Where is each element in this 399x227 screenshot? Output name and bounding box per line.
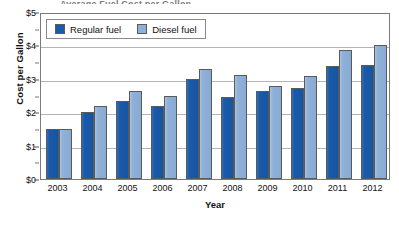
bar-diesel-fuel	[94, 106, 107, 179]
x-tick-label: 2004	[73, 183, 113, 193]
y-tick-label: $5	[2, 8, 36, 18]
bar-regular-fuel	[151, 106, 164, 179]
bar-regular-fuel	[186, 79, 199, 179]
y-tick-mark	[34, 146, 39, 147]
y-tick-label: $0	[2, 175, 36, 185]
x-tick-label: 2012	[353, 183, 393, 193]
bar-diesel-fuel	[269, 86, 282, 179]
x-tick-label: 2010	[283, 183, 323, 193]
fuel-cost-bar-chart: Average Fuel Cost per Gallon Cost per Ga…	[0, 0, 399, 227]
y-tick-minor-mark	[35, 29, 39, 30]
bar-group	[256, 14, 282, 179]
regular-fuel-swatch-icon	[55, 24, 65, 34]
y-tick-mark	[34, 113, 39, 114]
diesel-fuel-swatch-icon	[137, 24, 147, 34]
y-tick-mark	[34, 79, 39, 80]
y-tick-label: $2	[2, 108, 36, 118]
bar-diesel-fuel	[59, 129, 72, 179]
bar-regular-fuel	[256, 91, 269, 180]
bar-regular-fuel	[46, 129, 59, 179]
bar-diesel-fuel	[164, 96, 177, 180]
y-tick-mark	[34, 180, 39, 181]
x-tick-label: 2006	[143, 183, 183, 193]
legend-label-diesel-fuel: Diesel fuel	[152, 24, 196, 35]
y-tick-minor-mark	[35, 163, 39, 164]
bar-regular-fuel	[361, 65, 374, 179]
bar-group	[361, 14, 387, 179]
bar-regular-fuel	[116, 101, 129, 179]
x-tick-label: 2005	[108, 183, 148, 193]
bar-regular-fuel	[221, 97, 234, 179]
y-tick-minor-mark	[35, 63, 39, 64]
bar-diesel-fuel	[339, 50, 352, 179]
bar-group	[291, 14, 317, 179]
bar-regular-fuel	[326, 66, 339, 179]
legend-label-regular-fuel: Regular fuel	[70, 24, 121, 35]
x-tick-label: 2009	[248, 183, 288, 193]
bar-diesel-fuel	[304, 76, 317, 179]
chart-title-cropped: Average Fuel Cost per Gallon	[60, 0, 310, 4]
x-axis-title: Year	[40, 199, 390, 210]
bar-regular-fuel	[291, 88, 304, 179]
bar-group	[326, 14, 352, 179]
bar-group	[221, 14, 247, 179]
bar-regular-fuel	[81, 112, 94, 179]
legend-item-regular-fuel: Regular fuel	[55, 24, 121, 35]
chart-legend: Regular fuel Diesel fuel	[46, 19, 206, 39]
x-tick-label: 2007	[178, 183, 218, 193]
y-tick-label: $3	[2, 75, 36, 85]
x-tick-label: 2008	[213, 183, 253, 193]
y-tick-minor-mark	[35, 129, 39, 130]
bar-diesel-fuel	[234, 75, 247, 179]
y-tick-mark	[34, 13, 39, 14]
bar-diesel-fuel	[199, 69, 212, 179]
y-tick-label: $1	[2, 142, 36, 152]
y-tick-mark	[34, 46, 39, 47]
x-tick-label: 2011	[318, 183, 358, 193]
bar-diesel-fuel	[374, 45, 387, 179]
y-tick-label: $4	[2, 41, 36, 51]
bar-diesel-fuel	[129, 91, 142, 180]
x-tick-label: 2003	[38, 183, 78, 193]
legend-item-diesel-fuel: Diesel fuel	[137, 24, 196, 35]
y-axis-title: Cost per Gallon	[14, 23, 25, 115]
y-tick-minor-mark	[35, 96, 39, 97]
